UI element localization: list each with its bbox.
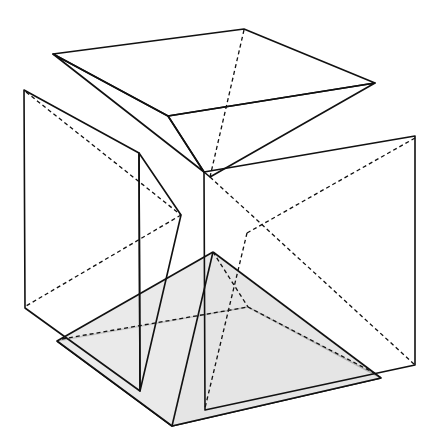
top-pyramid-front-face	[168, 83, 375, 177]
top-pyramid-top-face	[53, 29, 375, 116]
top-pyramid-left-face	[53, 54, 204, 172]
top-pyramid	[53, 29, 375, 177]
top-pyramid-hidden-edge	[210, 30, 244, 177]
bottom-pyramid	[57, 252, 381, 426]
exploded-cube-diagram	[0, 0, 433, 439]
right-panel-diagonal-2	[247, 138, 415, 233]
